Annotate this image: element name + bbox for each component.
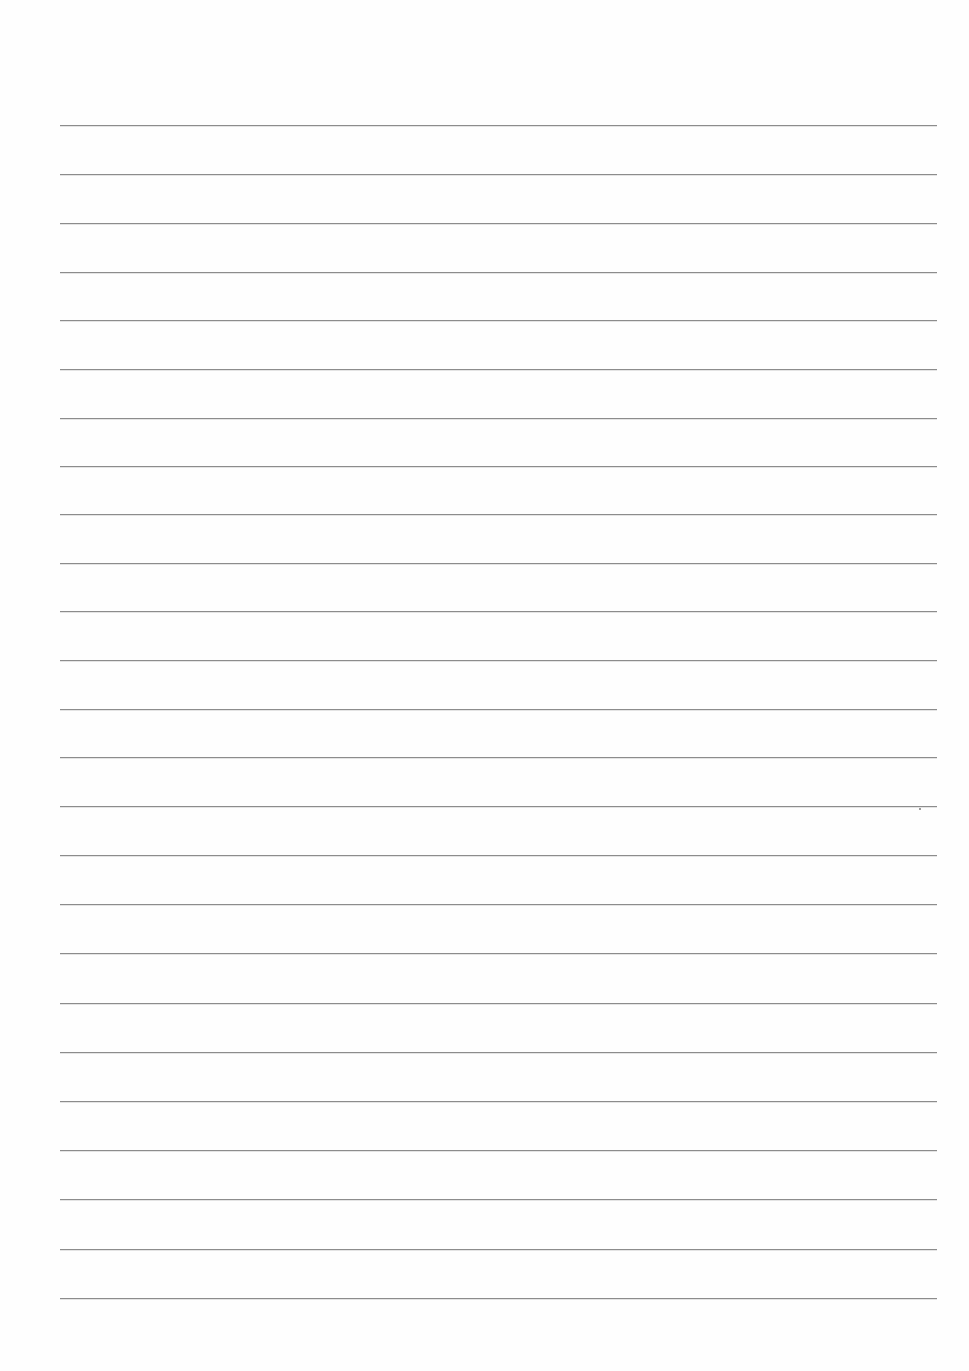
ruled-line [60, 563, 937, 564]
ruled-line [60, 1101, 937, 1102]
ruled-line [60, 1249, 937, 1250]
ruled-line [60, 806, 937, 807]
ruled-line [60, 709, 937, 710]
ruled-line [60, 320, 937, 321]
ruled-line [60, 174, 937, 175]
lined-paper-page [0, 0, 969, 1371]
ruled-line [60, 1150, 937, 1151]
ruled-line [60, 953, 937, 954]
ruled-line [60, 1298, 937, 1299]
ruled-line [60, 611, 937, 612]
ruled-line [60, 1052, 937, 1053]
ruled-line [60, 418, 937, 419]
ruled-line [60, 514, 937, 515]
ruled-line [60, 1199, 937, 1200]
ruled-line [60, 369, 937, 370]
ruled-line [60, 855, 937, 856]
ruled-line [60, 660, 937, 661]
ruled-line [60, 757, 937, 758]
ruled-line [60, 1003, 937, 1004]
scan-speck [919, 808, 921, 810]
ruled-line [60, 272, 937, 273]
ruled-line [60, 466, 937, 467]
ruled-line [60, 125, 937, 126]
ruled-line [60, 223, 937, 224]
ruled-line [60, 904, 937, 905]
